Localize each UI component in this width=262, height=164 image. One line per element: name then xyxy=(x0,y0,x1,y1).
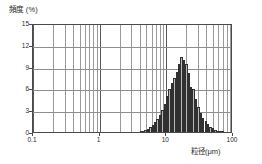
y-axis-title: 頻度 (%) xyxy=(9,6,38,14)
x-axis-tick-mark xyxy=(232,133,233,136)
x-axis-title: 粒径(μm) xyxy=(191,148,221,156)
plot-area xyxy=(32,24,232,133)
particle-size-distribution-chart: 頻度 (%) 03691215 0.1110100 粒径(μm) xyxy=(0,0,262,164)
x-axis-tick-mark xyxy=(99,133,100,136)
x-axis-tick-mark xyxy=(32,133,33,136)
x-axis-tick-label: 1 xyxy=(97,137,101,144)
y-axis-tick-label: 12 xyxy=(22,43,29,50)
x-axis-tick-label: 10 xyxy=(162,137,169,144)
y-axis-tick-labels: 03691215 xyxy=(12,24,29,133)
x-axis-tick-label: 100 xyxy=(227,137,238,144)
histogram-bars xyxy=(33,25,231,132)
y-axis-tick-label: 15 xyxy=(22,21,29,28)
histogram-bar xyxy=(221,131,223,132)
x-axis-tick-label: 0.1 xyxy=(27,137,36,144)
x-axis-tick-mark xyxy=(165,133,166,136)
